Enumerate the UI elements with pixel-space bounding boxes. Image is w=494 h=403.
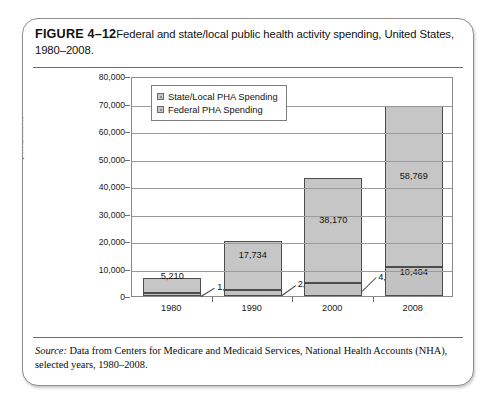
y-tick-mark xyxy=(125,270,130,271)
figure-number: FIGURE 4–12 xyxy=(35,27,116,41)
legend-label: Federal PHA Spending xyxy=(168,105,263,115)
y-tick-label: 50,000 xyxy=(99,155,125,165)
figure-source: Source: Data from Centers for Medicare a… xyxy=(35,344,459,372)
legend-item-state-local: State/Local PHA Spending xyxy=(157,90,278,103)
legend-item-federal: Federal PHA Spending xyxy=(157,103,278,116)
y-tick-mark xyxy=(125,105,130,106)
bar-value-label: 58,769 xyxy=(385,171,443,181)
y-tick-label: 70,000 xyxy=(99,100,125,110)
gridline xyxy=(132,243,452,244)
y-tick-mark xyxy=(125,187,130,188)
legend-swatch-icon xyxy=(157,106,164,113)
figure-card: FIGURE 4–12Federal and state/local publi… xyxy=(22,18,474,386)
source-text: Data from Centers for Medicare and Medic… xyxy=(35,345,447,370)
bar-value-label: 10,464 xyxy=(385,267,443,277)
y-axis-title: $ in Billions xyxy=(22,115,25,161)
x-tick-label: 2000 xyxy=(322,303,342,313)
x-tick-label: 1980 xyxy=(161,303,181,313)
y-tick-mark xyxy=(125,242,130,243)
y-tick-mark xyxy=(125,160,130,161)
chart-area: $ in Billions 80,00070,00060,00050,00040… xyxy=(23,69,474,337)
x-tick-mark xyxy=(292,297,293,302)
x-tick-mark xyxy=(373,297,374,302)
gridline xyxy=(132,271,452,272)
y-tick-label: 20,000 xyxy=(99,237,125,247)
chart-legend: State/Local PHA Spending Federal PHA Spe… xyxy=(151,85,287,121)
x-tick-label: 2008 xyxy=(403,303,423,313)
figure-caption: FIGURE 4–12Federal and state/local publi… xyxy=(35,27,461,58)
x-tick-label: 1990 xyxy=(242,303,262,313)
y-tick-mark xyxy=(125,215,130,216)
label-leader-line xyxy=(201,288,216,298)
y-tick-mark xyxy=(125,132,130,133)
label-leader-line xyxy=(281,285,296,296)
y-tick-mark xyxy=(125,77,130,78)
bar-segment-federal xyxy=(304,283,362,296)
bar-value-label: 5,210 xyxy=(143,271,201,281)
legend-label: State/Local PHA Spending xyxy=(168,92,278,102)
source-label: Source: xyxy=(35,345,67,356)
y-axis-ticks: 80,00070,00060,00050,00040,00030,00020,0… xyxy=(73,77,125,297)
y-tick-label: 10,000 xyxy=(99,265,125,275)
y-tick-label: 30,000 xyxy=(99,210,125,220)
y-tick-label: 60,000 xyxy=(99,127,125,137)
y-tick-mark xyxy=(125,297,130,298)
y-tick-label: 40,000 xyxy=(99,182,125,192)
figure-page: FIGURE 4–12Federal and state/local publi… xyxy=(0,0,494,403)
legend-swatch-icon xyxy=(157,93,164,100)
gridline xyxy=(132,188,452,189)
bar-segment-federal xyxy=(224,290,282,296)
bar-segment-federal xyxy=(143,293,201,296)
source-divider-bottom xyxy=(33,337,463,338)
bar-segment-state-local xyxy=(304,178,362,283)
gridline xyxy=(132,161,452,162)
label-leader-line xyxy=(362,278,377,292)
y-tick-label: 80,000 xyxy=(99,72,125,82)
bar-value-label: 38,170 xyxy=(304,215,362,225)
gridline xyxy=(132,133,452,134)
bar-segment-state-local xyxy=(224,241,282,290)
x-tick-mark xyxy=(212,297,213,302)
bar-value-label: 17,734 xyxy=(224,250,282,260)
gridline xyxy=(132,216,452,217)
